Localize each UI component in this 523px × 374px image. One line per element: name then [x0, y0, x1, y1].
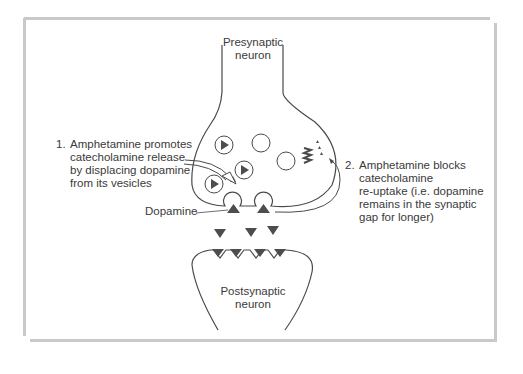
- annotation-2-line: Amphetamine blocks: [359, 159, 466, 171]
- vesicle-filled: [235, 161, 253, 179]
- annotation-2-line: re-uptake (i.e. dopamine: [345, 185, 484, 198]
- postsynaptic-neuron-label: Postsynaptic neuron: [218, 285, 288, 311]
- vesicle-empty: [277, 152, 295, 170]
- vesicle-filled: [205, 175, 223, 193]
- vesicle-filled: [215, 136, 233, 154]
- dopamine-molecule: [214, 229, 226, 238]
- presynaptic-label-line: Presynaptic: [222, 36, 284, 49]
- reuptake-transporter: [304, 148, 311, 163]
- dopamine-molecule: [267, 226, 279, 235]
- presynaptic-label-line: neuron: [222, 49, 284, 62]
- postsynaptic-label-line: neuron: [218, 298, 288, 311]
- vesicle-empty: [252, 134, 270, 152]
- annotation-1-line: Amphetamine promotes: [70, 138, 192, 150]
- annotation-2-number: 2.: [345, 159, 359, 172]
- annotation-1-line: from its vesicles: [56, 177, 192, 190]
- annotation-1-line: catecholamine release: [56, 151, 192, 164]
- dopamine-leader-line: [196, 210, 228, 213]
- dopamine-molecule: [245, 228, 257, 237]
- presynaptic-neuron-label: Presynaptic neuron: [222, 36, 284, 62]
- annotation-2-line: gap for longer): [345, 211, 484, 224]
- dopamine-molecule: [257, 204, 270, 213]
- dopamine-molecule: [227, 204, 240, 213]
- annotation-1-line: by displacing dopamine: [56, 164, 192, 177]
- blocked-dopamine: [320, 152, 323, 155]
- postsynaptic-label-line: Postsynaptic: [218, 285, 288, 298]
- annotation-1: 1.Amphetamine promotes catecholamine rel…: [56, 138, 192, 190]
- blocked-dopamine: [316, 140, 319, 143]
- blocked-dopamine: [318, 146, 321, 149]
- annotation-2-arrowhead: [329, 158, 334, 164]
- bound-dopamine: [254, 249, 266, 257]
- annotation-2-line: remains in the synaptic: [345, 198, 484, 211]
- annotation-1-number: 1.: [56, 138, 70, 151]
- dopamine-label: Dopamine: [145, 205, 197, 218]
- annotation-2: 2.Amphetamine blocks catecholamine re-up…: [345, 159, 484, 224]
- annotation-2-line: catecholamine: [345, 172, 484, 185]
